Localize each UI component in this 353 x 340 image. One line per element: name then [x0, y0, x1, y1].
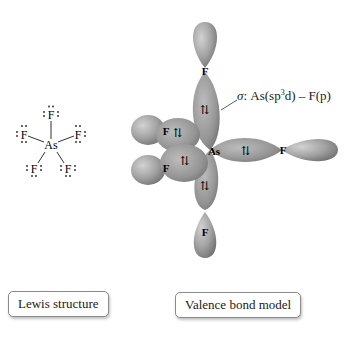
vb-central-atom: As: [208, 145, 221, 157]
lewis-structure-label: Lewis structure: [8, 291, 109, 317]
orbital-lower-left-f-lobe: [131, 155, 165, 185]
annotation-as-part: As(sp: [250, 88, 280, 103]
lewis-central-atom: As: [44, 138, 58, 152]
electron-pair-right: ⇅: [241, 144, 251, 158]
vb-f-right: F: [280, 144, 287, 156]
bond-right: [58, 136, 74, 142]
annotation-colon: :: [243, 88, 247, 103]
vb-f-lower-left: F: [163, 162, 170, 174]
orbital-top-f-lobe: [193, 22, 217, 68]
vb-f-upper-left: F: [163, 125, 170, 137]
lewis-f-top: F: [48, 108, 55, 122]
lewis-f-right: F: [75, 128, 82, 142]
annotation-d-part: d) – F(p): [285, 88, 331, 103]
lewis-f-lower-left: F: [31, 162, 38, 176]
lewis-structure-diagram: As F F F F F: [0, 105, 110, 215]
vb-f-top: F: [202, 65, 209, 77]
vb-f-bottom: F: [202, 226, 209, 238]
electron-pair-lower-left: ⇅: [180, 154, 190, 168]
electron-pair-top: ⇅: [200, 103, 210, 117]
valence-bond-model-label: Valence bond model: [175, 292, 301, 318]
bond-lower-right: [57, 152, 64, 163]
lewis-f-left: F: [21, 128, 28, 142]
electron-pair-upper-left: ⇅: [173, 126, 183, 140]
bond-left: [28, 136, 44, 142]
lewis-structure-svg: As F F F F F: [0, 105, 110, 215]
annotation-leader-line: [221, 100, 237, 110]
sigma-bond-annotation: σ: As(sp3d) – F(p): [237, 88, 331, 104]
orbital-right-f-lobe: [282, 139, 338, 161]
valence-bond-svg: F F F F F As ⇅ ⇅ ⇅ ⇅ ⇅: [120, 0, 353, 300]
electron-pair-bottom: ⇅: [200, 179, 210, 193]
bond-lower-left: [38, 152, 45, 163]
valence-bond-diagram: F F F F F As ⇅ ⇅ ⇅ ⇅ ⇅: [120, 0, 353, 300]
lewis-f-lower-right: F: [65, 162, 72, 176]
